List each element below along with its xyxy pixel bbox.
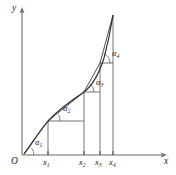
y-axis-label: y bbox=[12, 4, 16, 14]
tick-label-x1-sub: 1 bbox=[47, 162, 50, 168]
angle-label-alpha4: α4 bbox=[112, 49, 119, 59]
angle-label-alpha3: α3 bbox=[96, 78, 103, 88]
angle-label-alpha1: α1 bbox=[35, 138, 42, 148]
angle-label-alpha2-sub: 2 bbox=[67, 108, 70, 114]
x-axis-label: x bbox=[164, 157, 168, 167]
tick-label-x3-sub: 3 bbox=[99, 162, 102, 168]
geometry-diagram bbox=[0, 0, 176, 175]
x-axis-ticks bbox=[48, 151, 113, 155]
angle-label-alpha2: α2 bbox=[63, 104, 70, 114]
tick-label-x4: x4 bbox=[109, 158, 116, 168]
angle-label-alpha1-sub: 1 bbox=[39, 142, 42, 148]
y-axis bbox=[19, 7, 24, 155]
angle-arcs-group bbox=[32, 54, 110, 155]
angle-label-alpha3-sub: 3 bbox=[100, 82, 103, 88]
angle-arc-alpha3 bbox=[91, 85, 94, 93]
tick-label-x2: x2 bbox=[79, 158, 86, 168]
origin-label: O bbox=[11, 157, 18, 167]
angle-arc-alpha1 bbox=[32, 148, 34, 155]
tick-label-x1: x1 bbox=[43, 158, 50, 168]
tick-label-x3: x3 bbox=[95, 158, 102, 168]
figure-canvas: y x O x1 x2 x3 x4 α1 α2 α3 α4 bbox=[0, 0, 176, 175]
angle-arc-alpha2 bbox=[59, 115, 60, 122]
angle-label-alpha4-sub: 4 bbox=[116, 53, 119, 59]
tick-label-x2-sub: 2 bbox=[83, 162, 86, 168]
tick-label-x4-sub: 4 bbox=[113, 162, 116, 168]
